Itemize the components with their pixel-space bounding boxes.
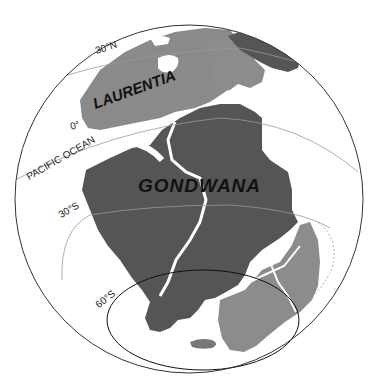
label-gondwana: GONDWANA [138,176,261,195]
paleogeographic-globe-map: 30°N LAURENTIA 0° PACIFIC OCEAN GONDWANA… [0,0,378,388]
